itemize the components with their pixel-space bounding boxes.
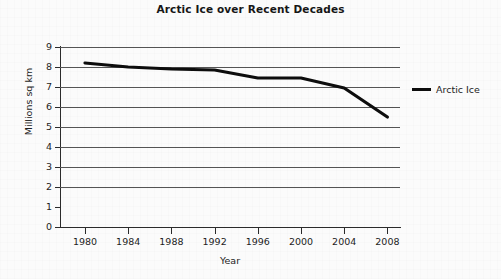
y-tick-label: 7 [38, 81, 52, 92]
x-tick-label: 2004 [324, 236, 364, 247]
x-axis-line [60, 227, 401, 228]
x-tick-mark [258, 228, 259, 234]
x-tick-mark [85, 228, 86, 234]
x-tick-label: 2000 [281, 236, 321, 247]
x-tick-mark [387, 228, 388, 234]
x-tick-mark [171, 228, 172, 234]
arctic-ice-line-chart: Arctic Ice over Recent Decades Millions … [0, 0, 501, 279]
y-tick-label: 8 [38, 61, 52, 72]
x-tick-label: 1984 [108, 236, 148, 247]
x-tick-label: 1988 [151, 236, 191, 247]
y-tick-label: 6 [38, 101, 52, 112]
x-axis-title: Year [60, 255, 400, 266]
chart-title: Arctic Ice over Recent Decades [0, 3, 501, 15]
x-tick-label: 1980 [65, 236, 105, 247]
y-tick-mark [55, 227, 61, 228]
legend-swatch-arctic-ice [412, 88, 431, 92]
x-tick-label: 1996 [238, 236, 278, 247]
x-tick-mark [128, 228, 129, 234]
y-tick-label: 5 [38, 121, 52, 132]
y-tick-label: 4 [38, 141, 52, 152]
x-tick-label: 1992 [195, 236, 235, 247]
y-tick-label: 2 [38, 181, 52, 192]
y-axis-title: Millions sq km [23, 42, 34, 162]
chart-legend: Arctic Ice [412, 84, 480, 95]
plot-area [60, 47, 400, 227]
x-tick-mark [344, 228, 345, 234]
y-tick-label: 0 [38, 221, 52, 232]
series-line-arctic-ice [85, 63, 387, 117]
x-tick-label: 2008 [367, 236, 407, 247]
y-tick-label: 9 [38, 41, 52, 52]
x-tick-mark [215, 228, 216, 234]
legend-label-arctic-ice: Arctic Ice [436, 84, 480, 95]
y-tick-label: 1 [38, 201, 52, 212]
x-tick-mark [301, 228, 302, 234]
y-tick-label: 3 [38, 161, 52, 172]
series-layer [60, 47, 400, 227]
